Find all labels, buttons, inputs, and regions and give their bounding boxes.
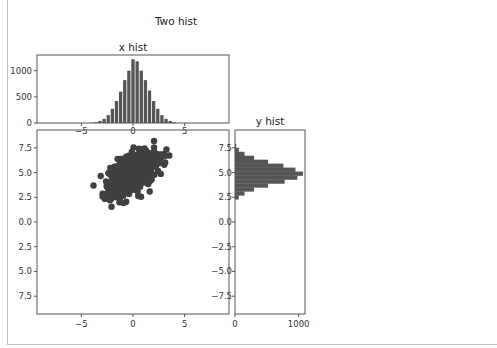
x-hist-bar <box>135 61 138 123</box>
svg-text:5: 5 <box>182 126 187 136</box>
y-hist-axes: 010007.55.02.50.0−2.5−5.0−7.5 <box>211 130 309 329</box>
y-hist-bar <box>235 168 295 172</box>
y-hist-bar <box>235 187 254 191</box>
svg-text:−2.5: −2.5 <box>211 242 232 252</box>
svg-text:500: 500 <box>16 92 32 102</box>
svg-text:0.0: 0.0 <box>218 217 232 227</box>
y-hist-bar <box>235 195 239 199</box>
x-hist-bar <box>152 101 155 123</box>
x-hist-bar <box>107 115 110 123</box>
svg-text:2.5: 2.5 <box>218 192 232 202</box>
x-hist-bar <box>115 101 118 123</box>
svg-text:−7.5: −7.5 <box>211 291 232 301</box>
y-hist-bar <box>235 172 303 176</box>
y-hist-bar <box>235 176 297 180</box>
x-hist-bar <box>148 91 151 123</box>
svg-text:5.0: 5.0 <box>218 168 232 178</box>
y-hist-bar <box>235 164 283 168</box>
svg-text:0: 0 <box>130 319 135 329</box>
svg-text:−5: −5 <box>75 319 88 329</box>
y-hist-bar <box>235 183 268 187</box>
x-hist-bar <box>127 71 130 123</box>
x-hist-bar <box>102 119 105 123</box>
svg-text:5.0: 5.0 <box>18 266 32 276</box>
svg-text:7.5: 7.5 <box>18 143 32 153</box>
svg-text:1000: 1000 <box>288 319 310 329</box>
svg-text:2.5: 2.5 <box>18 192 32 202</box>
x-hist-bar <box>140 71 143 123</box>
scatter-axes: −5057.55.02.50.02.55.07.5 <box>18 130 229 329</box>
x-hist-bar <box>119 92 122 123</box>
svg-text:1000: 1000 <box>10 66 32 76</box>
y-hist-bar <box>235 179 285 183</box>
svg-text:5.0: 5.0 <box>18 168 32 178</box>
svg-text:7.5: 7.5 <box>218 143 232 153</box>
svg-text:2.5: 2.5 <box>18 242 32 252</box>
svg-text:−5: −5 <box>75 126 88 136</box>
svg-text:−5.0: −5.0 <box>211 266 232 276</box>
x-hist-bar <box>123 80 126 123</box>
y-hist-bar <box>235 152 245 156</box>
svg-text:7.5: 7.5 <box>18 291 32 301</box>
y-hist-bar <box>235 156 254 160</box>
y-hist-bar <box>235 148 239 152</box>
y-hist-bar <box>235 160 268 164</box>
svg-text:0: 0 <box>130 126 135 136</box>
svg-text:0: 0 <box>232 319 237 329</box>
svg-text:5: 5 <box>182 319 187 329</box>
x-hist-bar <box>164 119 167 123</box>
x-hist-bar <box>160 115 163 123</box>
x-hist-bar <box>156 109 159 123</box>
svg-text:0.0: 0.0 <box>18 217 32 227</box>
x-hist-bar <box>131 59 134 123</box>
x-hist-axes: −50505001000 <box>10 55 229 136</box>
y-hist-bar <box>235 191 245 195</box>
x-hist-bar <box>111 109 114 123</box>
svg-text:0: 0 <box>27 118 32 128</box>
x-hist-bar <box>144 80 147 123</box>
